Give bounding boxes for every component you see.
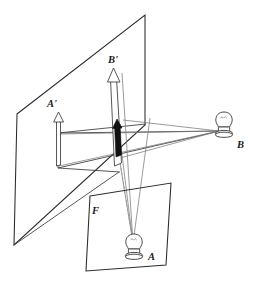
label-b: B <box>236 139 244 150</box>
figure-canvas: .edge { fill:none; stroke:#2b2b2b; strok… <box>0 0 256 284</box>
label-a-prime: A' <box>46 98 57 109</box>
label-a: A <box>147 251 155 262</box>
label-f: F <box>91 205 99 216</box>
bulb-b <box>215 112 232 137</box>
label-b-prime: B' <box>107 54 118 65</box>
diagram-svg: .edge { fill:none; stroke:#2b2b2b; strok… <box>0 0 256 284</box>
bulb-a <box>125 234 142 259</box>
